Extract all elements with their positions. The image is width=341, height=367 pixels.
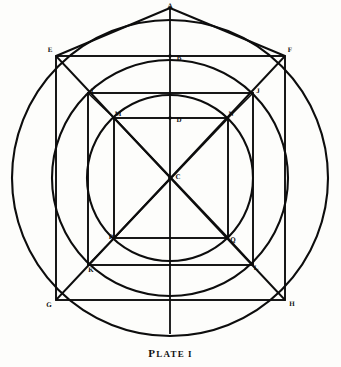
apex-left-chord bbox=[56, 8, 170, 56]
vertex-label-J: J bbox=[256, 88, 260, 95]
vertex-label-L: L bbox=[254, 265, 259, 272]
connector-middle-to-inner-upper-left bbox=[88, 93, 114, 118]
vertex-label-G: G bbox=[46, 302, 51, 309]
connector-middle-to-inner-lower-left bbox=[88, 238, 114, 265]
vertex-label-E: E bbox=[48, 47, 53, 54]
vertex-label-F: F bbox=[288, 47, 292, 54]
caption-body-text: LATE bbox=[156, 349, 185, 359]
plate-figure: A B C D E F G H I J K L M N P Q PLATEI bbox=[0, 0, 341, 367]
vertex-label-C: C bbox=[175, 174, 180, 181]
vertex-dot-center bbox=[168, 176, 172, 180]
caption-plate-number: I bbox=[188, 349, 193, 359]
vertex-label-D: D bbox=[176, 117, 181, 124]
geometry-drawing bbox=[0, 0, 341, 367]
plate-caption: PLATEI bbox=[0, 347, 341, 359]
vertex-label-P: P bbox=[109, 234, 113, 241]
apex-right-chord bbox=[170, 8, 285, 56]
vertex-label-B: B bbox=[177, 55, 182, 62]
vertex-label-H: H bbox=[289, 301, 294, 308]
vertex-label-I: I bbox=[91, 88, 94, 95]
vertex-label-K: K bbox=[88, 267, 93, 274]
vertex-label-A: A bbox=[167, 3, 172, 10]
vertex-label-M: M bbox=[115, 111, 122, 118]
vertex-label-N: N bbox=[228, 111, 233, 118]
vertex-label-Q: Q bbox=[230, 237, 235, 244]
vertex-dot-b bbox=[168, 54, 171, 57]
vertex-dot-d bbox=[168, 116, 171, 119]
